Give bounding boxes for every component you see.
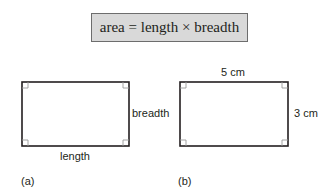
figure-a-tag: (a) (21, 175, 34, 187)
rectangle-b (180, 82, 288, 146)
breadth-label: breadth (132, 107, 169, 119)
height-3cm-label: 3 cm (294, 107, 318, 119)
rectangles-diagram (0, 0, 332, 189)
length-label: length (60, 150, 90, 162)
rectangle-a (22, 82, 129, 146)
figure-b-tag: (b) (178, 175, 191, 187)
width-5cm-label: 5 cm (221, 66, 245, 78)
